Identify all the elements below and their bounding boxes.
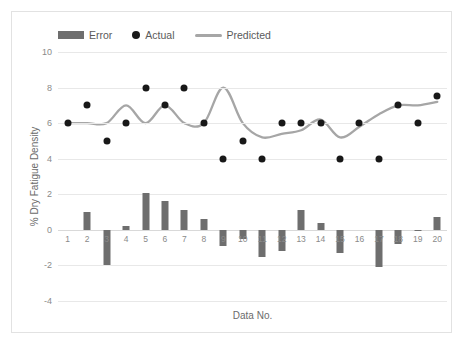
data-point-7 [181,84,188,91]
data-point-12 [278,120,285,127]
x-tick-label-8: 8 [202,234,207,244]
data-point-20 [434,93,441,100]
gridline-10 [58,52,447,53]
bar-19 [414,230,421,231]
predicted-path [68,88,438,138]
bar-swatch-icon [58,31,84,39]
chart-legend: Error Actual Predicted [58,29,271,41]
gridline-0 [58,230,447,231]
y-tick-label--2: -2 [44,260,52,270]
line-swatch-icon [195,34,222,37]
x-tick-label-19: 19 [413,234,422,244]
data-point-6 [161,102,168,109]
y-tick-label-6: 6 [47,118,52,128]
legend-item-actual: Actual [132,29,174,41]
x-tick-label-7: 7 [182,234,187,244]
x-tick-label-17: 17 [374,234,383,244]
data-point-17 [375,155,382,162]
x-tick-label-18: 18 [394,234,403,244]
data-point-10 [239,137,246,144]
y-tick-label-10: 10 [42,47,52,57]
gridline--4 [58,301,447,302]
x-tick-label-16: 16 [355,234,364,244]
y-tick-label-8: 8 [47,83,52,93]
data-point-19 [414,120,421,127]
data-point-9 [220,155,227,162]
data-point-15 [337,155,344,162]
x-tick-label-4: 4 [124,234,129,244]
legend-item-predicted: Predicted [195,29,271,41]
y-tick-label--4: -4 [44,296,52,306]
data-point-2 [84,102,91,109]
x-tick-label-3: 3 [104,234,109,244]
bar-13 [298,210,305,230]
chart-card: Error Actual Predicted % Dry Fatigue Den… [11,11,452,333]
data-point-5 [142,84,149,91]
x-tick-label-1: 1 [65,234,70,244]
data-point-16 [356,120,363,127]
x-tick-label-20: 20 [433,234,442,244]
data-point-11 [259,155,266,162]
bar-6 [161,201,168,229]
bar-20 [434,217,441,229]
legend-label-predicted: Predicted [227,29,271,41]
data-point-18 [395,102,402,109]
x-tick-label-15: 15 [335,234,344,244]
legend-label-actual: Actual [145,29,174,41]
gridline-8 [58,88,447,89]
bar-2 [84,212,91,230]
x-tick-label-5: 5 [143,234,148,244]
x-tick-label-12: 12 [277,234,286,244]
x-axis-title: Data No. [58,310,447,321]
y-tick-label-4: 4 [47,154,52,164]
legend-label-error: Error [89,29,112,41]
x-tick-label-9: 9 [221,234,226,244]
bar-5 [142,193,149,230]
data-point-8 [200,120,207,127]
y-tick-label-2: 2 [47,189,52,199]
y-axis-title-wrap: % Dry Fatigue Density [12,52,32,301]
bar-7 [181,210,188,230]
data-point-13 [298,120,305,127]
gridline-4 [58,159,447,160]
x-tick-label-10: 10 [238,234,247,244]
bar-8 [200,219,207,230]
gridline--2 [58,265,447,266]
data-point-3 [103,137,110,144]
data-point-1 [64,120,71,127]
bar-14 [317,223,324,230]
plot-area: 1086420-2-412345678910111213141516171819… [58,52,447,301]
dot-swatch-icon [132,31,140,39]
gridline-2 [58,194,447,195]
y-tick-label-0: 0 [47,225,52,235]
legend-item-error: Error [58,29,112,41]
x-tick-label-13: 13 [296,234,305,244]
data-point-14 [317,120,324,127]
predicted-line [58,52,447,301]
bar-4 [123,226,130,230]
x-tick-label-11: 11 [258,234,267,244]
gridline-6 [58,123,447,124]
y-axis-title: % Dry Fatigue Density [29,52,40,301]
x-tick-label-14: 14 [316,234,325,244]
x-tick-label-6: 6 [163,234,168,244]
x-tick-label-2: 2 [85,234,90,244]
data-point-4 [123,120,130,127]
